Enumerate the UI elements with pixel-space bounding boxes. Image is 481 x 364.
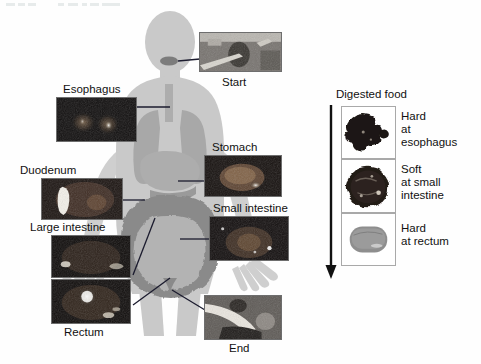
label-rectum: Rectum [64,326,104,339]
food-sample-box-rectum [341,213,396,266]
food-label-rectum-line2: at rectum [401,235,479,248]
label-end: End [229,342,249,355]
label-stomach: Stomach [212,141,257,154]
label-duodenum: Duodenum [20,164,76,177]
food-label-esophagus-line2: at [401,123,479,136]
photo-rectum [51,279,131,324]
food-sample-esophagus-icon [342,107,395,158]
food-label-esophagus-line1: Hard [401,110,479,123]
label-large-intestine: Large intestine [30,221,105,234]
photo-start [199,32,282,72]
food-sample-small-intestine-icon [342,160,395,212]
photo-small-intestine [209,216,289,261]
food-sample-box-small-intestine [341,159,396,213]
food-label-rectum-line1: Hard [401,222,479,235]
photo-duodenum [41,178,123,220]
label-esophagus: Esophagus [63,83,121,96]
figure-canvas: Start Esophagus Stomach Duodenum Small i… [0,0,481,364]
esophagus-organ [165,84,173,122]
photo-stomach [204,155,282,197]
food-label-esophagus-line3: esophagus [401,136,479,149]
label-small-intestine: Small intestine [213,202,288,215]
food-label-small-intestine-line1: Soft [401,163,479,176]
food-label-small-intestine-line2: at small [401,176,479,189]
stomach-organ [140,151,200,191]
photo-end [204,295,282,340]
label-start: Start [222,76,246,89]
digested-food-title: Digested food [336,88,407,101]
food-label-small-intestine: Soft at small intestine [401,163,479,202]
food-label-esophagus: Hard at esophagus [401,110,479,149]
photo-esophagus [56,97,137,142]
photo-large-intestine [51,235,131,278]
throat-marker [160,57,178,66]
downward-arrow-icon [324,105,338,280]
food-sample-rectum-icon [342,214,395,265]
food-label-rectum: Hard at rectum [401,222,479,248]
food-sample-box-esophagus [341,106,396,159]
food-label-small-intestine-line3: intestine [401,189,479,202]
